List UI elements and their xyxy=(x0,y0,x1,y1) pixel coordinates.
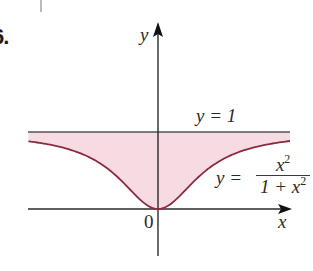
graph-canvas xyxy=(0,0,313,271)
x-axis-label: x xyxy=(278,211,286,233)
label-y-equals-1: y = 1 xyxy=(196,105,236,127)
y-axis-label: y xyxy=(140,24,148,46)
curve-fraction: x2 1 + x2 xyxy=(256,155,310,198)
curve-equation-lhs: y = xyxy=(216,167,242,189)
figure: 6. y x 0 y = 1 y = x2 1 + x2 xyxy=(0,0,313,271)
label-curve-equation: y = x2 1 + x2 xyxy=(216,155,310,198)
origin-label: 0 xyxy=(144,211,154,233)
fraction-denominator: 1 + x2 xyxy=(256,176,310,198)
fraction-numerator: x2 xyxy=(272,155,294,175)
